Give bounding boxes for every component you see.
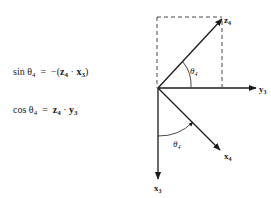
theta4-label-upper: θ4: [190, 66, 197, 77]
x4-axis-arrow: [158, 88, 220, 150]
z4-axis-arrow: [158, 19, 222, 88]
vector-diagram: z4 y3 x4 x3 θ4 θ4: [0, 0, 271, 198]
z4-label: z4: [224, 15, 231, 26]
projection-box: [157, 17, 222, 88]
angle-arc-lower: [158, 122, 193, 136]
x3-label: x3: [154, 183, 162, 194]
y3-label: y3: [259, 84, 267, 95]
theta4-label-lower: θ4: [173, 139, 180, 150]
x4-label: x4: [224, 151, 232, 162]
